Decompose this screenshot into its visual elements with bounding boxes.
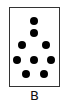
dot — [30, 56, 38, 64]
dot — [18, 41, 26, 49]
dot — [47, 56, 55, 64]
dot — [42, 41, 50, 49]
dot — [22, 70, 30, 78]
dot — [40, 70, 48, 78]
dot — [13, 56, 21, 64]
figure-label: B — [0, 89, 69, 103]
dot — [30, 29, 38, 37]
dot — [30, 17, 38, 25]
